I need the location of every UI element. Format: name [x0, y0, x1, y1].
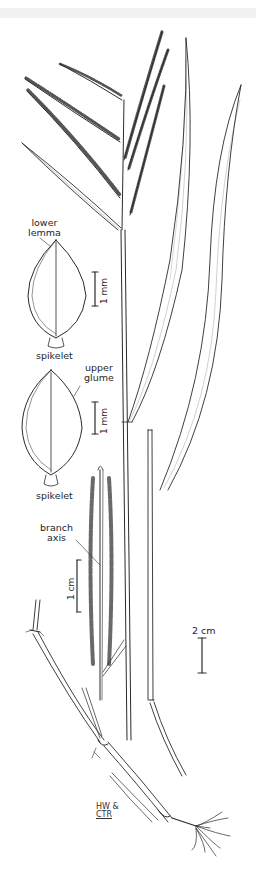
botanical-plate — [0, 0, 256, 873]
raceme — [124, 32, 162, 160]
upper-glume-illustration — [22, 370, 82, 486]
branch-detail — [76, 466, 126, 700]
lower-lemma-label: lower lemma — [28, 218, 61, 238]
culm — [121, 230, 132, 740]
branch-axis-label: branch axis — [40, 523, 73, 543]
spikelet-label-2: spikelet — [36, 491, 73, 501]
scale-bar-lemma — [92, 272, 98, 306]
scale-bar-habit — [198, 638, 206, 673]
scale-bar-branch — [77, 560, 81, 612]
signature-line: CTR — [96, 811, 119, 819]
scale-label-habit: 2 cm — [192, 626, 216, 636]
raceme — [27, 90, 120, 198]
label-text: axis — [40, 533, 73, 543]
upper-glume-label: upper glume — [84, 363, 114, 383]
roots — [172, 812, 230, 856]
scale-bar-glume — [92, 402, 98, 434]
artist-signature: HW & CTR — [96, 803, 119, 819]
inflorescence — [25, 32, 168, 230]
scale-label-glume: 1 mm — [99, 408, 109, 434]
lower-stem — [26, 600, 172, 822]
raceme — [60, 64, 122, 100]
leaf-blade — [128, 38, 190, 422]
spikelet-label-1: spikelet — [36, 351, 73, 361]
label-text: lemma — [28, 228, 61, 238]
scale-label-branch: 1 cm — [66, 578, 76, 600]
scale-label-lemma: 1 mm — [99, 278, 109, 304]
lower-lemma-illustration — [28, 238, 86, 348]
lower-culm — [148, 430, 186, 776]
label-text: glume — [84, 373, 114, 383]
